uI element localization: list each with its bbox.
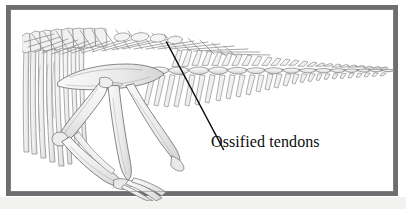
ischium xyxy=(126,84,180,164)
chevrons xyxy=(144,73,386,107)
caudal-neural-spines xyxy=(172,50,388,68)
ossified-tendons-label: Ossified tendons xyxy=(211,134,320,150)
skeleton-illustration xyxy=(22,20,404,201)
figure-root: Ossified tendons xyxy=(0,0,406,209)
pubis xyxy=(108,86,131,180)
foot-bones xyxy=(122,178,166,201)
illustration-frame xyxy=(6,5,398,196)
